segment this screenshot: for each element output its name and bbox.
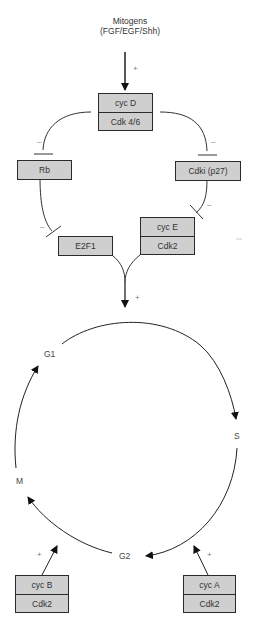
rb-inhibit-sign: –	[37, 137, 41, 146]
cycb-label: cyc B	[16, 576, 68, 594]
e2f1-label: E2F1	[59, 237, 112, 255]
phase-g2: G2	[119, 551, 130, 561]
cyca-arrow	[194, 546, 208, 575]
phase-s: S	[234, 431, 240, 441]
cycd-cdk46-node: cyc D Cdk 4/6	[98, 93, 153, 131]
rb-label: Rb	[18, 161, 71, 179]
cyca-label: cyc A	[184, 576, 235, 594]
cycb-cdk2-label: Cdk2	[16, 594, 68, 612]
mitogens-line2: (FGF/EGF/Shh)	[60, 26, 200, 36]
cycd-cdki-inhibit	[160, 112, 207, 151]
mitogens-line1: Mitogens	[60, 16, 200, 26]
e2f1-merge	[112, 255, 125, 282]
cdki-node: Cdki (p27)	[175, 161, 241, 181]
cyca-cdk2-node: cyc A Cdk2	[183, 575, 236, 613]
cdk46-label: Cdk 4/6	[99, 112, 152, 130]
cdki-label: Cdki (p27)	[176, 162, 240, 180]
cdki-cyce-inhibit	[196, 179, 207, 213]
cycle-g2-m	[28, 497, 112, 553]
cycd-label: cyc D	[99, 94, 152, 112]
cdki-inhibit-sign: –	[211, 137, 215, 146]
phase-m: M	[16, 476, 23, 486]
cycb-sign: +	[37, 550, 42, 559]
mitogen-sign: +	[133, 64, 138, 73]
cyce-cdk2-node: cyc E Cdk2	[140, 217, 195, 255]
cyce-cdk2-label: Cdk2	[141, 236, 194, 254]
e2f1-node: E2F1	[58, 236, 113, 256]
phase-g1: G1	[44, 349, 55, 359]
cycb-arrow	[42, 546, 57, 575]
cyce-inhibit-sign: –	[207, 200, 211, 209]
cycle-m-g1	[15, 366, 38, 468]
cycd-rb-inhibit	[43, 112, 91, 150]
merge-sign: +	[135, 293, 140, 302]
cycb-cdk2-node: cyc B Cdk2	[15, 575, 69, 613]
e2f1-inhibit-sign: –	[40, 222, 44, 231]
cyca-sign: +	[207, 550, 212, 559]
mitogens-label: Mitogens (FGF/EGF/Shh)	[60, 16, 200, 36]
cyce-merge	[125, 255, 140, 282]
cyce-label: cyc E	[141, 218, 194, 236]
cycle-g1-s	[62, 322, 236, 419]
cycle-s-g2	[146, 448, 237, 556]
cyca-cdk2-label: Cdk2	[184, 594, 235, 612]
rb-node: Rb	[17, 160, 72, 180]
